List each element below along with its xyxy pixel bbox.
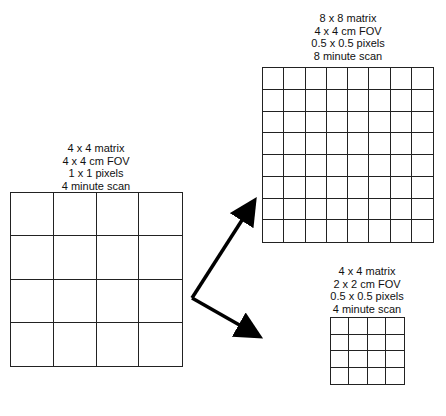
branch-arrows (0, 0, 446, 416)
arrow-to-high-res-icon (192, 203, 253, 298)
arrow-to-small-fov-icon (192, 298, 257, 335)
